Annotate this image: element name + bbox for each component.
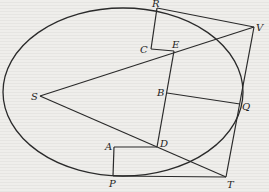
geometry-diagram: S R C E V B Q D A P T: [0, 0, 269, 192]
label-S: S: [31, 91, 38, 102]
line-RV: [157, 8, 254, 27]
label-P: P: [108, 178, 116, 189]
line-PT: [113, 176, 226, 177]
label-C: C: [140, 44, 148, 55]
line-ST: [40, 96, 226, 177]
line-CE: [151, 49, 174, 51]
line-RC: [151, 8, 157, 49]
label-A: A: [104, 141, 112, 152]
label-R: R: [151, 0, 160, 9]
ellipse: [3, 8, 243, 176]
label-T: T: [227, 179, 235, 190]
label-B: B: [156, 87, 164, 98]
line-BQ: [167, 93, 240, 104]
label-V: V: [256, 22, 265, 33]
label-E: E: [171, 39, 180, 50]
label-Q: Q: [242, 101, 250, 112]
line-AP: [113, 147, 114, 176]
line-SV: [40, 27, 254, 96]
diagram-svg: S R C E V B Q D A P T: [0, 0, 269, 192]
line-ED: [157, 51, 174, 147]
label-D: D: [159, 138, 168, 149]
